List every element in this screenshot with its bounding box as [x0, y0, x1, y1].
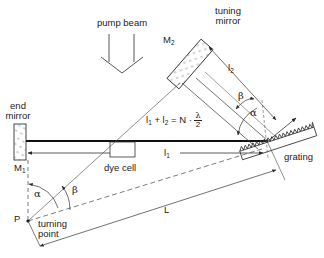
pump-beam-arrow-icon	[101, 34, 143, 73]
dye-cell-label: dye cell	[104, 163, 136, 173]
beta-label-p: β	[72, 185, 78, 195]
l2-label: l2	[228, 63, 234, 76]
l1-label: l1	[164, 148, 170, 161]
end-mirror-m1	[14, 124, 26, 160]
dye-cell	[110, 142, 135, 157]
resonance-formula: l1 + l2 = N · λ2	[146, 112, 202, 129]
pump-beam-label: pump beam	[96, 18, 148, 28]
end-mirror-label-2: mirror	[0, 111, 36, 121]
big-l-label: L	[164, 205, 169, 215]
m2-label: M2	[163, 35, 175, 48]
beta-label-grating: β	[238, 91, 244, 101]
m1-label: M1	[14, 163, 26, 176]
alpha-label-p: α	[34, 189, 41, 199]
laser-cavity-diagram: pump beam tuning mirror M2 end mirror M1…	[0, 0, 324, 258]
tuning-mirror-label-2: mirror	[208, 16, 248, 26]
p-label: P	[14, 214, 20, 224]
alpha-label-grating: α	[250, 108, 257, 118]
grating-label: grating	[284, 152, 313, 162]
turning-point-label-2: point	[38, 229, 59, 239]
